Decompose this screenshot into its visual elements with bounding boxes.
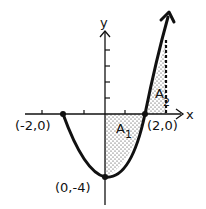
point-label-2-0: (2,0) [147,118,178,133]
parabola-diagram: y x (-2,0) (2,0) (0,-4) A 1 A 2 [0,0,206,209]
x-axis-label: x [186,107,194,122]
region-a1-subscript: 1 [125,128,132,141]
point-label-neg2-0: (-2,0) [15,118,51,133]
point-2-0 [142,111,148,117]
point-label-0-neg4: (0,-4) [55,180,91,195]
region-a1-label: A [116,121,125,136]
point-0-neg4 [102,174,108,180]
y-axis-label: y [100,15,108,30]
point-neg2-0 [60,111,66,117]
region-a2-subscript: 2 [163,96,170,109]
